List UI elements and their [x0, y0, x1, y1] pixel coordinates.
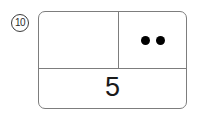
- whole-cell[interactable]: 5: [39, 69, 186, 108]
- item-number-label: 10: [15, 18, 25, 28]
- part-part-whole-box: 5: [38, 11, 187, 109]
- counter-dot-icon: [141, 36, 150, 45]
- whole-value-label: 5: [105, 74, 120, 101]
- counter-dot-icon: [156, 36, 165, 45]
- worksheet-item: 10 5: [0, 0, 201, 119]
- dot-group: [141, 36, 165, 45]
- part-cell-left[interactable]: [39, 12, 118, 68]
- part-cell-right[interactable]: [119, 12, 186, 68]
- item-number-circle: 10: [11, 14, 29, 32]
